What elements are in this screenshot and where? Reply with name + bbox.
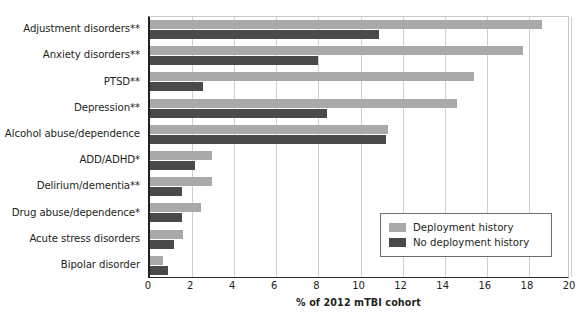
bar-group (150, 177, 568, 196)
bar-group (150, 256, 568, 275)
bar (150, 203, 201, 212)
x-tick-label: 14 (436, 280, 449, 292)
x-tick-label: 12 (394, 280, 407, 292)
bar (150, 109, 327, 118)
bar (150, 266, 168, 275)
bar-group (150, 99, 568, 118)
category-label: Adjustment disorders** (0, 23, 140, 34)
bar (150, 99, 457, 108)
chart-legend: Deployment historyNo deployment history (380, 213, 552, 257)
bar-chart: Adjustment disorders**Anxiety disorders*… (0, 0, 582, 319)
category-label: Delirium/dementia** (0, 180, 140, 191)
legend-label: No deployment history (413, 237, 529, 248)
category-label: Alcohol abuse/dependence (0, 128, 140, 139)
bar-group (150, 20, 568, 39)
category-label: Acute stress disorders (0, 233, 140, 244)
x-axis-tick-labels: 02468101214161820 (148, 280, 569, 294)
category-label: Bipolar disorder (0, 259, 140, 270)
bar-group (150, 72, 568, 91)
x-tick-label: 4 (229, 280, 235, 292)
bar (150, 56, 318, 65)
bar (150, 240, 174, 249)
category-label: PTSD** (0, 76, 140, 87)
bar (150, 30, 379, 39)
bar (150, 230, 183, 239)
bar (150, 256, 163, 265)
x-tick-label: 16 (478, 280, 491, 292)
bar (150, 161, 195, 170)
category-label: Anxiety disorders** (0, 49, 140, 60)
x-tick-label: 6 (271, 280, 277, 292)
category-label: ADD/ADHD* (0, 154, 140, 165)
category-label: Depression** (0, 102, 140, 113)
x-tick-label: 20 (563, 280, 576, 292)
bar (150, 187, 182, 196)
legend-label: Deployment history (413, 222, 514, 233)
bar (150, 151, 212, 160)
bar-group (150, 151, 568, 170)
bar-group (150, 125, 568, 144)
category-label: Drug abuse/dependence* (0, 207, 140, 218)
bar (150, 72, 474, 81)
legend-item: No deployment history (389, 235, 543, 250)
x-axis-title: % of 2012 mTBI cohort (148, 297, 569, 308)
legend-swatch (389, 223, 406, 232)
legend-swatch (389, 238, 406, 247)
bar (150, 20, 542, 29)
bar-group (150, 46, 568, 65)
bar (150, 135, 386, 144)
bar (150, 46, 523, 55)
x-tick-label: 18 (521, 280, 534, 292)
x-tick-label: 10 (352, 280, 365, 292)
bar (150, 82, 203, 91)
x-tick-label: 2 (187, 280, 193, 292)
bar (150, 177, 212, 186)
gridline (571, 17, 572, 277)
category-axis: Adjustment disorders**Anxiety disorders*… (0, 16, 146, 278)
bar (150, 213, 182, 222)
legend-item: Deployment history (389, 220, 543, 235)
x-tick-label: 8 (313, 280, 319, 292)
bar (150, 125, 388, 134)
x-tick-label: 0 (145, 280, 151, 292)
